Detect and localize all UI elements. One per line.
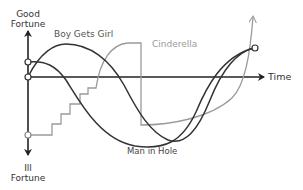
start-point-cinderella [25, 132, 31, 138]
end-point [252, 45, 258, 51]
fortune-label-top: Fortune [6, 19, 50, 29]
label-cinderella: Cinderella [152, 39, 197, 49]
fortune-label-bottom: Fortune [6, 173, 50, 183]
x-axis-label: Time [268, 72, 291, 82]
label-man-in-hole: Man in Hole [127, 146, 177, 156]
start-point-man-in-hole [25, 59, 31, 65]
good-label: Good [6, 9, 50, 19]
label-boy-gets-girl: Boy Gets Girl [54, 29, 113, 39]
ill-label: Ill [6, 163, 50, 173]
y-axis-top-label: Good Fortune [6, 9, 50, 29]
start-point-boy-gets-girl [25, 74, 31, 80]
y-axis-bottom-label: Ill Fortune [6, 163, 50, 183]
